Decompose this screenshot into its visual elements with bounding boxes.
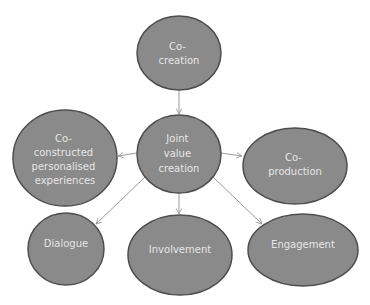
edge-joint-to-co-constructed <box>118 153 137 156</box>
node-joint-value-creation: Joint value creation <box>137 115 221 193</box>
node-engagement: Engagement <box>248 214 358 286</box>
svg-text:Dialogue: Dialogue <box>44 238 88 249</box>
node-shape <box>128 215 232 295</box>
svg-text:Engagement: Engagement <box>271 239 335 250</box>
node-co-constructed-personalised-experiences: Co- constructed personalised experiences <box>13 110 117 206</box>
node-label-line: Joint <box>165 133 188 144</box>
node-label-line: Co- <box>55 133 72 144</box>
node-label-line: value <box>164 148 191 159</box>
node-co-creation: Co- creation <box>137 16 221 90</box>
node-label-line: creation <box>159 55 200 66</box>
svg-text:Involvement: Involvement <box>149 244 211 255</box>
node-shape <box>28 213 104 285</box>
node-label-line: Involvement <box>149 244 211 255</box>
node-dialogue: Dialogue <box>28 213 104 285</box>
diagram-canvas: Co- creation Joint value creation Co- co… <box>0 0 370 305</box>
node-shape <box>13 110 117 206</box>
node-label-line: experiences <box>35 175 96 186</box>
node-label-line: Co- <box>285 152 302 163</box>
node-co-production: Co- production <box>243 128 347 204</box>
node-label-line: personalised <box>32 161 96 172</box>
node-label-line: constructed <box>34 147 93 158</box>
node-involvement: Involvement <box>128 215 232 295</box>
node-label-line: Engagement <box>271 239 335 250</box>
node-label-line: Co- <box>169 41 186 52</box>
edge-joint-to-co-production <box>221 153 242 156</box>
node-label-line: Dialogue <box>44 238 88 249</box>
node-shape <box>248 214 358 286</box>
node-shape <box>137 16 221 90</box>
node-label-line: creation <box>159 163 200 174</box>
node-label-line: production <box>268 166 322 177</box>
